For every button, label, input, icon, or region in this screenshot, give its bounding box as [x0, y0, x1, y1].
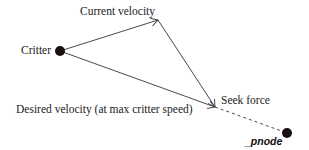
- seek-diagram-canvas: [0, 0, 309, 150]
- critter-node: [55, 46, 65, 56]
- current-velocity-arrow: [60, 20, 158, 51]
- pnode-label: _pnode: [245, 136, 282, 147]
- pnode-target-node: [282, 128, 292, 138]
- critter-label: Critter: [21, 45, 51, 57]
- seek-force-arrow: [158, 20, 215, 107]
- desired-velocity-arrow: [60, 51, 215, 107]
- current-velocity-label: Current velocity: [80, 6, 155, 18]
- desired-velocity-label: Desired velocity (at max critter speed): [16, 104, 193, 116]
- direction-to-target-dashed-line: [215, 107, 287, 133]
- seek-force-label: Seek force: [221, 95, 270, 107]
